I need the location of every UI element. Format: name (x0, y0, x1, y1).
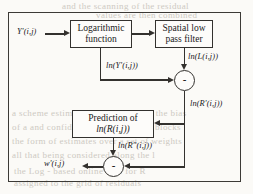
background-text-top1: and the scanning of the residual (62, 1, 189, 11)
line-bus-to-sum2 (130, 166, 185, 167)
arrow-bus-to-prediction (154, 120, 160, 126)
line-sum1-down-bus (184, 91, 185, 166)
signal-label-prediction-out: ln(R″(i,j)) (118, 141, 152, 150)
signal-label-lpf-out: ln(L(i,j)) (188, 52, 218, 61)
block-logarithmic-function-line1: Logarithmic (78, 23, 125, 34)
line-sum2-to-output (88, 166, 103, 167)
summing-junction-1-sign: - (183, 74, 187, 85)
block-prediction: Prediction of ln(R(i,j)) (72, 110, 154, 138)
block-spatial-low-pass-filter-line2: pass filter (165, 34, 202, 45)
signal-label-sum1-out: ln(R'(i,j)) (190, 99, 222, 108)
line-log-to-lpf (132, 33, 149, 34)
arrow-input-to-log (64, 30, 70, 36)
signal-label-output: w'(i,j) (44, 159, 64, 168)
arrow-log-to-lpf (149, 30, 155, 36)
block-prediction-line2: ln(R(i,j)) (96, 124, 130, 135)
line-log-down (100, 48, 101, 80)
line-input-to-log (45, 33, 64, 34)
line-log-to-sum1 (100, 79, 168, 80)
signal-label-input: Y'(i,j) (17, 27, 36, 36)
arrow-prediction-to-sum2 (110, 150, 116, 156)
signal-label-log-out: ln(Y'(i,j)) (106, 61, 138, 70)
arrow-bus-to-sum2 (124, 163, 130, 169)
line-bus-to-prediction (160, 123, 185, 124)
arrow-lpf-to-sum1 (181, 64, 187, 70)
diagram-page: and the scanning of the residual values … (0, 0, 253, 194)
block-logarithmic-function-line2: function (85, 34, 117, 45)
block-logarithmic-function: Logarithmic function (70, 20, 132, 48)
block-spatial-low-pass-filter: Spatial low pass filter (155, 20, 213, 48)
summing-junction-2: - (103, 156, 124, 177)
summing-junction-1: - (174, 70, 195, 91)
block-spatial-low-pass-filter-line1: Spatial low (162, 23, 205, 34)
arrow-sum2-to-output (82, 163, 88, 169)
summing-junction-2-sign: - (112, 160, 116, 171)
block-prediction-line1: Prediction of (88, 113, 137, 124)
arrow-log-to-sum1 (168, 77, 174, 83)
